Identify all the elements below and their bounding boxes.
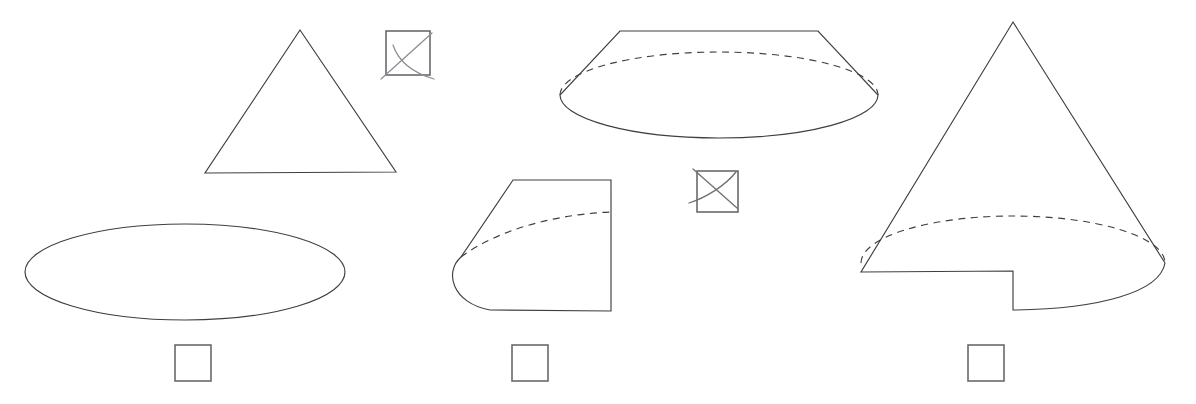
checkbox-frustum-option[interactable] xyxy=(689,169,738,212)
checkbox-half-frustum-option[interactable] xyxy=(512,345,548,381)
checkbox-ellipse-option[interactable] xyxy=(175,345,211,381)
notched-cone-shape xyxy=(861,22,1165,310)
checkbox-ellipse-box[interactable] xyxy=(175,345,211,381)
frustum-hidden-base-arc xyxy=(560,52,878,95)
checkbox-notched-cone-option[interactable] xyxy=(968,345,1004,381)
triangle-outline xyxy=(205,30,396,173)
notched-cone-outline xyxy=(861,22,1165,310)
notched-cone-hidden-base-arc xyxy=(861,216,1165,263)
ellipse-shape xyxy=(25,224,345,320)
worksheet-canvas xyxy=(0,0,1196,404)
ellipse-outline xyxy=(25,224,345,320)
checkbox-notched-cone-box[interactable] xyxy=(968,345,1004,381)
checkbox-half-frustum-box[interactable] xyxy=(512,345,548,381)
half-frustum-hidden-base-arc xyxy=(461,212,611,257)
frustum-shape xyxy=(560,31,878,138)
checkbox-triangle-option[interactable] xyxy=(381,31,434,79)
half-frustum-outline xyxy=(453,180,611,311)
half-frustum-shape xyxy=(453,180,611,311)
frustum-outline xyxy=(560,31,878,138)
triangle-shape xyxy=(205,30,396,173)
shapes-layer xyxy=(0,0,1196,404)
